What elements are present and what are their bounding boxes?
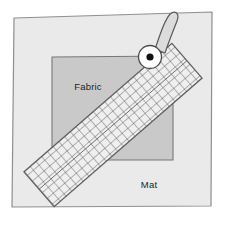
illustration-canvas: Fabric Mat <box>0 0 227 225</box>
rotary-cutter-axle-icon <box>146 53 153 60</box>
fabric-label: Fabric <box>74 81 102 92</box>
mat-label: Mat <box>141 179 158 190</box>
quilting-illustration-figure: Fabric Mat <box>0 0 227 225</box>
